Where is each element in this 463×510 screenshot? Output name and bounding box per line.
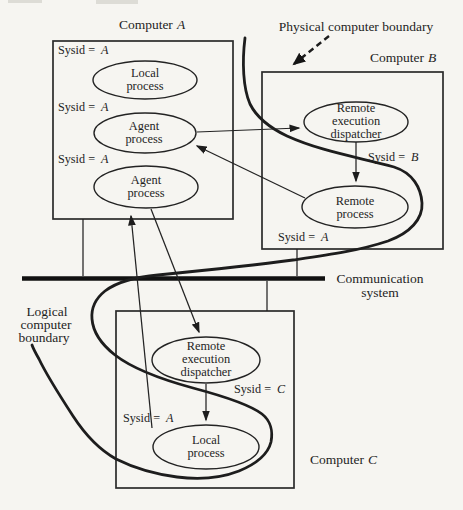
figure-distributed-computation-diagram: ComputerA Physical computer boundary Com…	[0, 0, 463, 510]
a-agent2-label-line2: process	[127, 186, 164, 200]
c-local-process-label-line2: process	[187, 446, 224, 460]
b-dispatcher-label-line2: execution	[332, 114, 380, 128]
diagram-canvas: ComputerA Physical computer boundary Com…	[0, 0, 463, 510]
a-agent1-label-line1: Agent	[129, 119, 160, 133]
sysid-label-b-remote: Sysid =A	[278, 230, 329, 244]
computer-a-title: ComputerA	[119, 17, 186, 32]
physical-boundary-pointer-arrow	[294, 36, 329, 64]
b-remote-process-label-line2: process	[336, 207, 373, 221]
arrow-agent1-to-b-dispatcher	[197, 128, 299, 132]
sysid-label-b: Sysid =B	[368, 150, 419, 164]
computer-c-title: ComputerC	[310, 452, 378, 467]
communication-label-line2: system	[361, 285, 399, 300]
c-dispatcher-label-line2: execution	[182, 352, 230, 366]
arrow-b-remote-to-agent1	[197, 146, 305, 198]
sysid-label-c: Sysid =C	[234, 382, 286, 396]
sysid-label-a-mid: Sysid =A	[58, 100, 109, 114]
arrow-c-local-to-agent2	[131, 216, 152, 428]
c-dispatcher-label-line1: Remote	[187, 339, 226, 353]
cropped-text-artifact	[96, 0, 138, 4]
physical-boundary-label: Physical computer boundary	[279, 19, 434, 34]
a-agent1-label-line2: process	[125, 132, 162, 146]
sysid-label-a-bottom: Sysid =A	[58, 152, 109, 166]
b-remote-process-label-line1: Remote	[336, 194, 375, 208]
cropped-text-artifact	[8, 0, 42, 3]
computer-b-title: ComputerB	[370, 50, 436, 65]
sysid-label-a-top: Sysid =A	[58, 43, 109, 57]
c-local-process-label-line1: Local	[192, 433, 221, 447]
sysid-label-c-local: Sysid =A	[123, 411, 174, 425]
a-local-process-label-line1: Local	[131, 66, 160, 80]
logical-boundary-label-line3: boundary	[19, 330, 70, 345]
c-dispatcher-label-line3: dispatcher	[181, 365, 233, 379]
a-local-process-label-line2: process	[126, 79, 163, 93]
a-agent2-label-line1: Agent	[131, 173, 162, 187]
b-dispatcher-label-line3: dispatcher	[331, 127, 383, 141]
b-dispatcher-label-line1: Remote	[337, 101, 376, 115]
communication-label-line1: Communication	[337, 271, 424, 286]
